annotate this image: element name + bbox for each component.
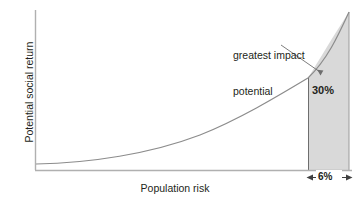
band-width-arrow-right (346, 175, 353, 181)
y-axis-label: Potential social return (23, 17, 35, 167)
annotation-greatest-impact-potential: greatest impact potential (233, 25, 305, 122)
band-width-arrow-left (307, 175, 314, 181)
annotation-line-2: potential (233, 85, 305, 97)
x-axis-label: Population risk (35, 182, 315, 194)
shaded-region-share-label: 30% (312, 84, 334, 97)
annotation-line-1: greatest impact (233, 49, 305, 61)
band-width-label: 6% (318, 171, 332, 183)
chart-figure: Potential social return Population risk … (0, 0, 362, 206)
chart-canvas (0, 0, 362, 206)
